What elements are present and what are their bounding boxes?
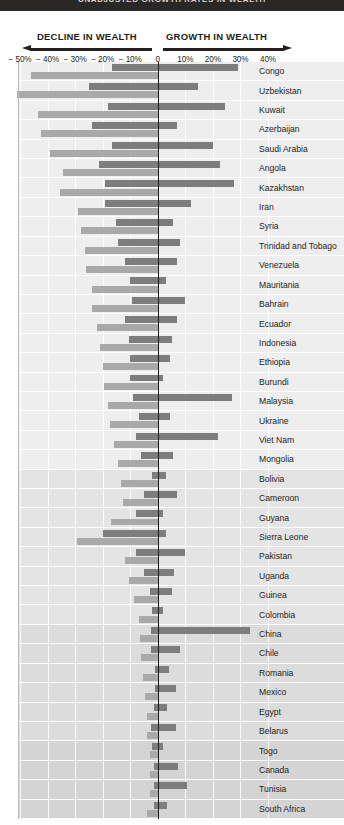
- country-label: Venezuela: [259, 256, 343, 275]
- zero-axis-line: [158, 62, 160, 819]
- bar-adjusted: [50, 150, 157, 157]
- bar-adjusted: [100, 344, 158, 351]
- grid-line: [103, 664, 104, 683]
- decline-label: DECLINE IN WEALTH: [37, 31, 137, 42]
- grid-line: [185, 295, 186, 314]
- grid-line: [75, 489, 76, 508]
- grid-line: [213, 334, 214, 353]
- chart-title: UNADJUSTED GROWTH RATES IN WEALTH: [0, 0, 344, 4]
- grid-line: [48, 508, 49, 527]
- grid-line: [213, 586, 214, 605]
- grid-line: [213, 450, 214, 469]
- grid-line: [20, 567, 21, 586]
- grid-line: [20, 140, 21, 159]
- bar-unadjusted: [154, 704, 168, 711]
- grid-line: [185, 547, 186, 566]
- country-label: Ukraine: [259, 411, 343, 430]
- grid-line: [75, 314, 76, 333]
- bar-adjusted: [77, 538, 158, 545]
- grid-line: [130, 800, 131, 819]
- grid-line: [20, 722, 21, 741]
- grid-line: [20, 489, 21, 508]
- grid-line: [103, 547, 104, 566]
- grid-line: [103, 508, 104, 527]
- grid-line: [240, 683, 241, 702]
- bar-adjusted: [118, 460, 158, 467]
- chart-row: Pakistan: [0, 547, 344, 566]
- country-label: Ethiopia: [259, 353, 343, 372]
- grid-line: [240, 470, 241, 489]
- chart-row: Guinea: [0, 586, 344, 605]
- arrow-right-icon: [163, 45, 292, 52]
- chart-row: China: [0, 625, 344, 644]
- chart-row: Tunisia: [0, 780, 344, 799]
- grid-line: [130, 683, 131, 702]
- country-label: Mauritania: [259, 276, 343, 295]
- bar-unadjusted: [151, 724, 176, 731]
- grid-line: [240, 431, 241, 450]
- grid-line: [185, 256, 186, 275]
- country-label: Saudi Arabia: [259, 140, 343, 159]
- grid-line: [213, 741, 214, 760]
- grid-line: [185, 703, 186, 722]
- bar-unadjusted: [130, 355, 170, 362]
- grid-line: [213, 800, 214, 819]
- grid-line: [213, 81, 214, 100]
- grid-line: [213, 120, 214, 139]
- bar-unadjusted: [154, 802, 168, 809]
- grid-line: [48, 334, 49, 353]
- grid-line: [240, 489, 241, 508]
- grid-line: [75, 508, 76, 527]
- bar-adjusted: [85, 247, 158, 254]
- grid-line: [20, 237, 21, 256]
- grid-line: [48, 470, 49, 489]
- country-label: Canada: [259, 761, 343, 780]
- chart-row: Saudi Arabia: [0, 140, 344, 159]
- grid-line: [48, 198, 49, 217]
- country-label: Tunisia: [259, 780, 343, 799]
- chart-row: Bahrain: [0, 295, 344, 314]
- grid-line: [185, 508, 186, 527]
- chart-row: Belarus: [0, 722, 344, 741]
- chart-row: Ecuador: [0, 314, 344, 333]
- bar-adjusted: [134, 596, 157, 603]
- grid-line: [20, 120, 21, 139]
- grid-line: [185, 373, 186, 392]
- grid-line: [240, 741, 241, 760]
- country-label: Azerbaijan: [259, 120, 343, 139]
- grid-line: [75, 392, 76, 411]
- grid-line: [213, 567, 214, 586]
- grid-line: [20, 159, 21, 178]
- grid-line: [213, 217, 214, 236]
- grid-line: [75, 276, 76, 295]
- grid-line: [240, 703, 241, 722]
- country-label: Mongolia: [259, 450, 343, 469]
- grid-line: [240, 761, 241, 780]
- bar-adjusted: [81, 227, 158, 234]
- grid-line: [75, 198, 76, 217]
- grid-line: [213, 314, 214, 333]
- chart-row: Angola: [0, 159, 344, 178]
- grid-line: [213, 295, 214, 314]
- grid-line: [185, 120, 186, 139]
- bar-adjusted: [125, 557, 158, 564]
- grid-line: [185, 217, 186, 236]
- grid-line: [240, 198, 241, 217]
- chart-row: Uganda: [0, 567, 344, 586]
- grid-line: [20, 664, 21, 683]
- grid-line: [48, 256, 49, 275]
- bar-adjusted: [140, 635, 158, 642]
- grid-line: [103, 450, 104, 469]
- grid-line: [130, 644, 131, 663]
- country-label: Chile: [259, 644, 343, 663]
- bar-adjusted: [114, 441, 158, 448]
- bar-unadjusted: [112, 142, 213, 149]
- grid-line: [213, 722, 214, 741]
- grid-line: [103, 392, 104, 411]
- grid-line: [240, 140, 241, 159]
- grid-line: [103, 644, 104, 663]
- grid-line: [75, 470, 76, 489]
- grid-line: [20, 528, 21, 547]
- country-label: Kuwait: [259, 101, 343, 120]
- arrow-left-icon: [22, 45, 152, 52]
